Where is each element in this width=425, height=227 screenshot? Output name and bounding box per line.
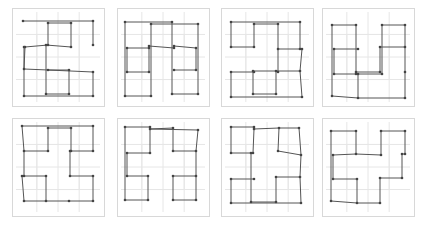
vertex-dot	[147, 175, 150, 178]
vertex-dot	[69, 175, 72, 178]
vertex-dot	[23, 150, 26, 153]
vertex-dot	[92, 71, 95, 74]
vertex-dot	[45, 93, 48, 96]
vertex-dot	[253, 128, 256, 131]
vertex-dot	[356, 178, 359, 181]
vertex-dot	[21, 175, 24, 178]
vertex-dot	[47, 150, 50, 153]
vertex-dot	[197, 129, 200, 132]
vertex-dot	[92, 175, 95, 178]
vertex-dot	[195, 69, 198, 72]
vertex-dot	[333, 73, 336, 76]
vertex-dot	[275, 176, 278, 179]
vertex-dot	[172, 175, 175, 178]
vertex-dot	[171, 21, 174, 24]
vertex-dot	[124, 95, 127, 98]
vertex-dot	[68, 93, 71, 96]
vertex-dot	[149, 152, 152, 155]
panel-5	[13, 119, 105, 217]
vertex-dot	[149, 128, 152, 131]
vertex-dot	[299, 176, 302, 179]
vertex-dot	[92, 150, 95, 153]
vertex-dot	[23, 68, 26, 71]
vertex-dot	[250, 201, 253, 204]
vertex-dot	[173, 69, 176, 72]
vertex-dot	[357, 73, 360, 76]
vertex-dot	[70, 127, 73, 130]
vertex-dot	[404, 153, 407, 156]
vertex-dot	[230, 71, 233, 74]
vertex-dot	[332, 178, 335, 181]
vertex-dot	[277, 48, 280, 51]
vertex-dot	[331, 24, 334, 27]
panel-1	[13, 9, 105, 107]
vertex-dot	[404, 97, 407, 100]
panel-2	[118, 9, 210, 107]
vertex-dot	[148, 71, 151, 74]
vertex-dot	[404, 71, 407, 74]
vertex-dot	[355, 130, 358, 133]
vertex-dot	[230, 21, 233, 24]
vertex-dot	[277, 150, 280, 153]
vertex-dot	[404, 24, 407, 27]
vertex-dot	[332, 154, 335, 157]
vertex-dot	[21, 125, 24, 128]
vertex-dot	[126, 71, 129, 74]
vertex-dot	[404, 46, 407, 49]
vertex-dot	[124, 21, 127, 24]
vertex-dot	[355, 153, 358, 156]
vertex-dot	[197, 23, 200, 26]
vertex-dot	[70, 150, 73, 153]
vertex-dot	[298, 127, 301, 130]
vertex-dot	[275, 201, 278, 204]
vertex-dot	[330, 200, 333, 203]
vertex-dot	[195, 150, 198, 153]
vertex-dot	[381, 24, 384, 27]
vertex-dot	[45, 44, 48, 47]
vertex-dot	[92, 44, 95, 47]
vertex-dot	[23, 46, 26, 49]
vertex-dot	[381, 73, 384, 76]
figure-canvas	[0, 0, 425, 227]
vertex-dot	[253, 46, 256, 49]
vertex-dot	[47, 127, 50, 130]
vertex-dot	[23, 95, 26, 98]
vertex-dot	[148, 45, 151, 48]
vertex-dot	[300, 202, 303, 205]
vertex-dot	[357, 48, 360, 51]
vertex-dot	[380, 154, 383, 157]
vertex-dot	[277, 71, 280, 74]
vertex-dot	[45, 200, 48, 203]
vertex-dot	[171, 93, 174, 96]
vertex-dot	[230, 178, 233, 181]
vertex-dot	[195, 199, 198, 202]
vertex-dot	[150, 23, 153, 26]
vertex-dot	[68, 69, 71, 72]
vertex-dot	[45, 175, 48, 178]
vertex-dot	[230, 152, 233, 155]
panel-4	[323, 9, 415, 107]
vertex-dot	[380, 130, 383, 133]
vertex-dot	[23, 200, 26, 203]
vertex-dot	[330, 130, 333, 133]
vertex-dot	[230, 46, 233, 49]
vertex-dot	[277, 23, 280, 26]
vertex-dot	[379, 46, 382, 49]
vertex-dot	[172, 150, 175, 153]
panel-8	[323, 119, 415, 217]
vertex-dot	[357, 97, 360, 100]
vertex-dot	[195, 175, 198, 178]
vertex-dot	[92, 95, 95, 98]
vertex-dot	[333, 48, 336, 51]
vertex-dot	[147, 199, 150, 202]
vertex-dot	[253, 71, 256, 74]
vertex-dot	[70, 22, 73, 25]
vertex-dot	[299, 21, 302, 24]
vertex-dot	[301, 96, 304, 99]
vertex-dot	[230, 202, 233, 205]
vertex-dot	[92, 200, 95, 203]
vertex-dot	[126, 47, 129, 50]
vertex-dot	[197, 93, 200, 96]
vertex-dot	[253, 178, 256, 181]
vertex-dot	[379, 202, 382, 205]
